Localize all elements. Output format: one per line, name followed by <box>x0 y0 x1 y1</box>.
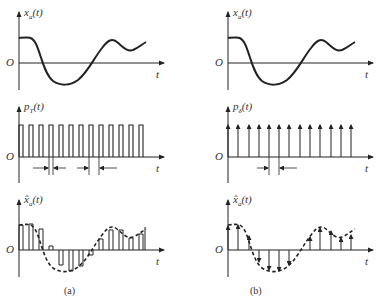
panel-a-row1-t-label: t <box>156 69 159 80</box>
panel-a-sampled-signal-plot <box>19 200 164 277</box>
panel-b-row2-origin: O <box>215 151 223 162</box>
panel-b-row2-t-label: t <box>365 163 368 174</box>
panel-b-continuous-signal-plot <box>228 12 373 90</box>
panel-a-row2-t-label: t <box>156 163 159 174</box>
impulses <box>228 125 351 157</box>
panel-a-pulse-train-plot <box>19 107 164 183</box>
signal-curve <box>19 37 146 84</box>
panel-a-row3-t-label: t <box>156 256 159 267</box>
panel-a-row2-ylabel: pT(t) <box>24 101 44 115</box>
panel-b-row2-ylabel: pδ(t) <box>233 101 252 115</box>
panel-a-caption: (a) <box>64 286 75 296</box>
panel-a-row1-origin: O <box>6 57 14 68</box>
panel-b-row1-origin: O <box>215 57 223 68</box>
panel-a-row1-ylabel: xa(t) <box>24 7 43 21</box>
sampling-diagram <box>0 0 383 301</box>
weighted-impulses <box>228 225 351 271</box>
signal-curve <box>228 37 355 84</box>
panel-a-row3-origin: O <box>6 244 14 255</box>
envelope-dashed <box>228 224 355 271</box>
panel-b-row3-t-label: t <box>365 256 368 267</box>
panel-b-row1-t-label: t <box>365 69 368 80</box>
pulses <box>19 125 143 157</box>
panel-a-row2-origin: O <box>6 151 14 162</box>
panel-b-row3-origin: O <box>215 244 223 255</box>
panel-b-impulse-train-plot <box>228 107 373 183</box>
panel-b-row1-ylabel: xa(t) <box>233 7 252 21</box>
panel-b <box>228 12 373 277</box>
panel-a-row3-ylabel: x̂a(t) <box>24 194 43 208</box>
panel-a <box>19 12 164 277</box>
panel-b-sampled-signal-plot <box>228 200 373 277</box>
panel-a-continuous-signal-plot <box>19 12 164 90</box>
panel-b-caption: (b) <box>250 286 262 296</box>
panel-b-row3-ylabel: x̂a(t) <box>233 194 252 208</box>
